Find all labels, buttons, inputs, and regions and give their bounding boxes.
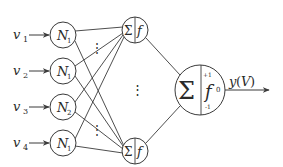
input-layer: v 1 N 1 v 2 N 1 v 3 N 2 v 4 N — [13, 22, 76, 156]
input-ellipsis-top: ⋮ — [91, 41, 103, 55]
input-sub: 4 — [23, 143, 28, 152]
input-sub: 3 — [23, 107, 28, 116]
input-4: v 4 N 1 — [13, 130, 76, 156]
input-1: v 1 N 1 — [13, 22, 76, 48]
sum-symbol: Σ — [124, 145, 132, 159]
neuron-sub: 1 — [67, 37, 71, 45]
output-close-paren: ) — [250, 74, 255, 89]
input-var: v — [13, 135, 21, 150]
sum-symbol: Σ — [178, 77, 195, 105]
input-2: v 2 N 1 — [13, 58, 76, 84]
hidden-ellipsis: ⋮ — [131, 82, 144, 97]
zero-mark: 0 — [216, 86, 220, 94]
output-neuron: Σ f +1 -1 0 — [175, 65, 225, 115]
hidden-neuron-top: Σ f — [122, 17, 148, 43]
input-sub: 1 — [23, 35, 28, 44]
neuron-sub: 1 — [67, 73, 71, 81]
input-var: v — [13, 99, 21, 114]
neural-network-diagram: v 1 N 1 v 2 N 1 v 3 N 2 v 4 N — [0, 0, 283, 167]
sum-symbol: Σ — [124, 24, 132, 38]
upper-bound: +1 — [203, 71, 212, 78]
input-sub: 2 — [23, 71, 28, 80]
input-var: v — [13, 63, 21, 78]
hidden-neuron-bottom: Σ f — [122, 138, 148, 164]
neuron-sub: 2 — [67, 109, 71, 117]
lower-bound: -1 — [205, 103, 211, 110]
input-3: v 3 N 2 — [13, 94, 76, 120]
output-label: y ( V ) — [228, 74, 255, 89]
input-var: v — [13, 27, 21, 42]
input-ellipsis-bottom: ⋮ — [91, 123, 103, 137]
neuron-sub: 1 — [67, 145, 71, 153]
